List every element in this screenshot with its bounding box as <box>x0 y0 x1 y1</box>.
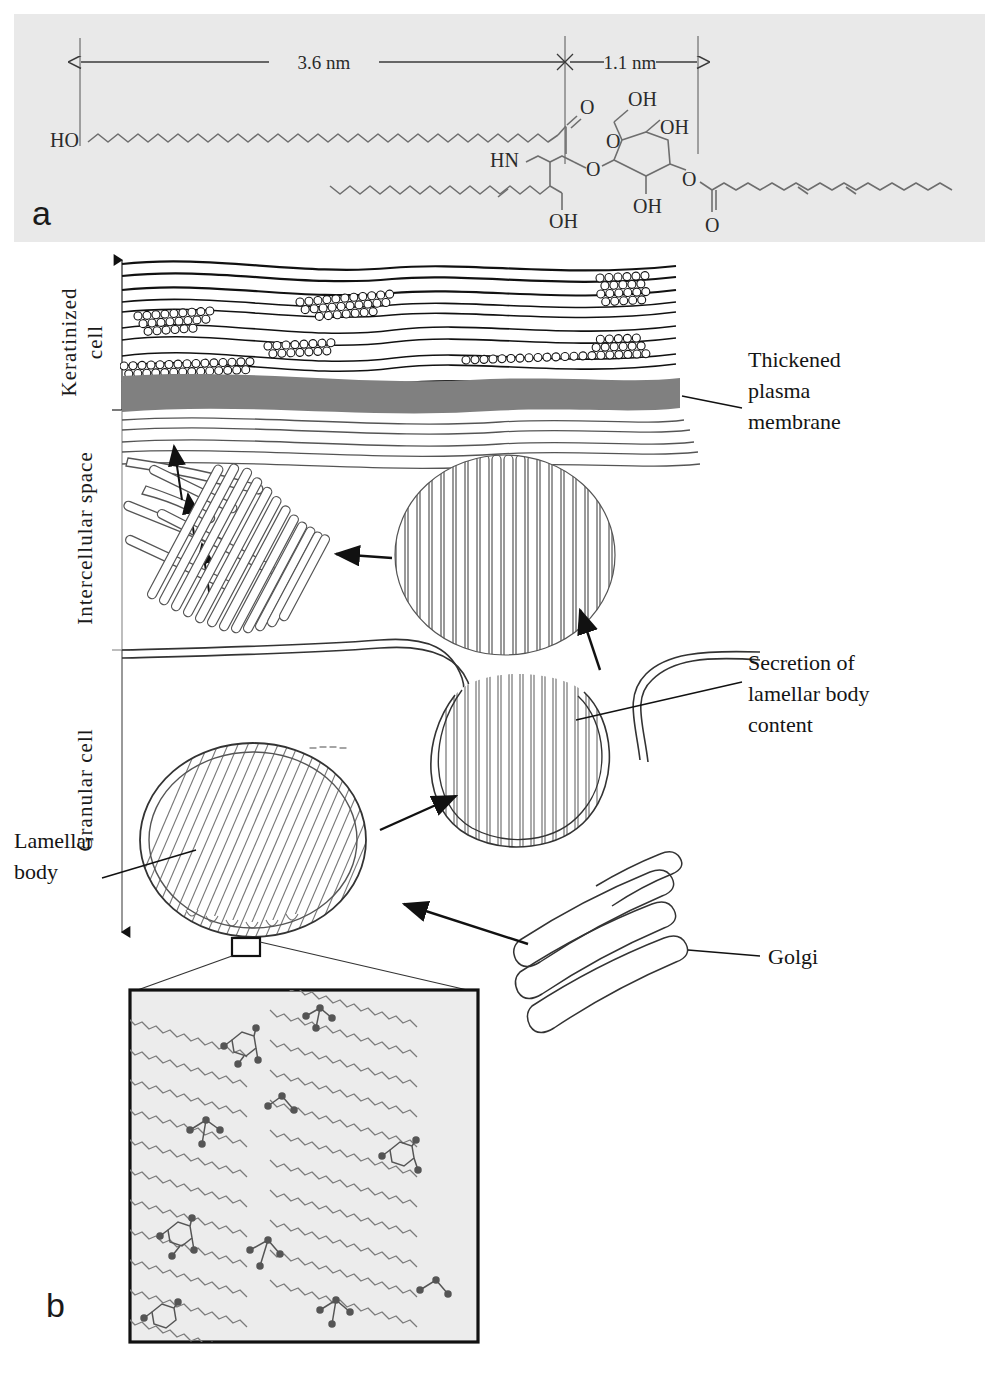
callout-line-1: Lamellar <box>14 828 94 853</box>
callout-line-3: membrane <box>748 409 841 434</box>
panel-b-graphic: Keratinized cell Intercellular space Gra… <box>0 250 999 1390</box>
lamellar-body-dots <box>310 747 346 748</box>
linoleate-chain <box>712 183 952 194</box>
sphingosine-backbone <box>526 156 574 193</box>
secreting-lamellar-body <box>431 660 610 860</box>
keratinized-cell-label-line2: cell <box>83 325 107 359</box>
unrolling-lamellar-bundle <box>146 462 331 634</box>
lamellar-body-callout: Lamellar body <box>14 828 94 884</box>
thickened-plasma-membrane-band <box>122 374 680 413</box>
golgi-apparatus <box>514 852 688 1033</box>
panel-a: 3.6 nm 1.1 nm HO O HN <box>14 14 985 242</box>
sphingosine-tail <box>330 186 550 197</box>
figure-root: 3.6 nm 1.1 nm HO O HN <box>0 0 999 1400</box>
panel-a-graphic: 3.6 nm 1.1 nm HO O HN <box>14 14 985 242</box>
dimension-1-1-nm: 1.1 nm <box>570 52 697 73</box>
fatty-acyl-chain <box>88 134 558 142</box>
callout-line-1: Thickened <box>748 347 841 372</box>
keratinized-cell-region <box>120 261 676 387</box>
intercellular-space-label: Intercellular space <box>73 451 97 625</box>
callout-line-2: body <box>14 859 58 884</box>
golgi-to-lamellar-body-arrow <box>404 904 528 944</box>
amide-carbonyl <box>558 116 581 154</box>
intercellular-lamellae-lines <box>122 418 700 468</box>
callout-line-2: plasma <box>748 378 811 403</box>
label-OH-sugar-6: OH <box>628 88 657 110</box>
label-O-ester: O <box>682 168 696 190</box>
region-axes <box>112 260 130 932</box>
lipid-packing-inset <box>0 980 478 1387</box>
inset-border <box>130 990 478 1342</box>
callout-line-1: Secretion of <box>748 650 856 675</box>
label-O-ring: O <box>606 130 620 152</box>
label-HN: HN <box>490 149 519 171</box>
callout-line-2: lamellar body <box>748 681 870 706</box>
magnification-source-box <box>232 938 260 956</box>
thickened-plasma-membrane-leader <box>682 396 742 408</box>
label-HO: HO <box>50 129 79 151</box>
figure-caption <box>14 1384 974 1400</box>
thickened-plasma-membrane-callout: Thickened plasma membrane <box>748 347 841 434</box>
dimension-1-1-nm-label: 1.1 nm <box>604 52 657 73</box>
ester-carbonyl <box>700 182 716 212</box>
callout-line-3: content <box>748 712 813 737</box>
keratin-wavy-lines <box>122 261 676 295</box>
keratinized-cell-label-line1: Keratinized <box>57 288 81 397</box>
golgi-leader <box>688 950 760 956</box>
label-O-glycosidic: O <box>586 158 600 180</box>
label-OH-sugar-4: OH <box>660 116 689 138</box>
disc-to-bundle-arrow <box>336 554 392 558</box>
label-O-ester-carbonyl: O <box>705 214 719 236</box>
lamellar-body-oval <box>110 740 410 956</box>
golgi-label: Golgi <box>768 944 818 969</box>
keratinized-cell-label-group: Keratinized cell <box>57 288 107 397</box>
label-OH-sugar-2: OH <box>633 195 662 217</box>
dimension-3-6-nm-label: 3.6 nm <box>298 52 351 73</box>
dimension-3-6-nm: 3.6 nm <box>81 52 573 73</box>
magnification-leader-lines <box>132 942 476 992</box>
secretion-callout: Secretion of lamellar body content <box>748 650 870 737</box>
panel-a-label: a <box>32 196 51 230</box>
panel-b-label: b <box>46 1288 65 1322</box>
secretion-callout-leader <box>576 682 742 720</box>
label-OH-sphingosine: OH <box>549 210 578 232</box>
label-carbonyl-O: O <box>580 96 594 118</box>
secreted-lamellar-disc <box>390 450 630 665</box>
